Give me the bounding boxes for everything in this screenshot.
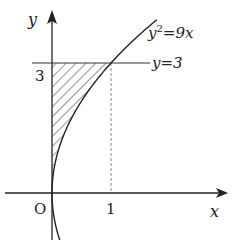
y-axis-label: y (27, 10, 38, 29)
coordinate-diagram: y x O 1 3 y2=9x y=3 (0, 0, 238, 240)
x-axis-label: x (210, 202, 219, 221)
origin-label: O (34, 200, 46, 218)
line-equation-label: y=3 (151, 54, 183, 72)
shaded-region (52, 63, 111, 193)
y-tick-label: 3 (35, 67, 45, 85)
eq-rest: =9x (163, 24, 194, 42)
parabola-equation-label: y2=9x (147, 23, 194, 42)
x-tick-label: 1 (106, 200, 116, 218)
parabola-curve (52, 20, 157, 240)
